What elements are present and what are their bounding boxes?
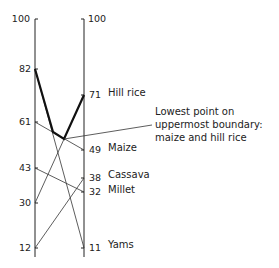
crop-comparison-diagram: 100 100 82 61 43 30 12 71 49 38 32 11 Hi… xyxy=(0,0,279,268)
right-top-label: 100 xyxy=(88,13,106,24)
left-12: 12 xyxy=(19,242,31,253)
left-61: 61 xyxy=(19,116,31,127)
label-hill-rice: Hill rice xyxy=(108,87,146,98)
annotation-line-3: maize and hill rice xyxy=(155,132,247,143)
right-49: 49 xyxy=(89,144,101,155)
upper-boundary xyxy=(35,69,84,139)
label-millet: Millet xyxy=(108,184,135,195)
right-38: 38 xyxy=(89,172,101,183)
cassava-line xyxy=(35,178,84,248)
left-30: 30 xyxy=(19,197,31,208)
right-32: 32 xyxy=(89,186,101,197)
annotation-line-2: uppermost boundary: xyxy=(155,119,263,130)
label-yams: Yams xyxy=(107,239,134,250)
right-11: 11 xyxy=(89,242,101,253)
label-maize: Maize xyxy=(108,142,137,153)
label-cassava: Cassava xyxy=(108,169,150,180)
annotation-line-1: Lowest point on xyxy=(155,106,234,117)
left-43: 43 xyxy=(19,162,31,173)
right-71: 71 xyxy=(89,89,101,100)
left-82: 82 xyxy=(19,63,31,74)
left-top-label: 100 xyxy=(12,13,30,24)
annotation-pointer xyxy=(64,125,152,139)
